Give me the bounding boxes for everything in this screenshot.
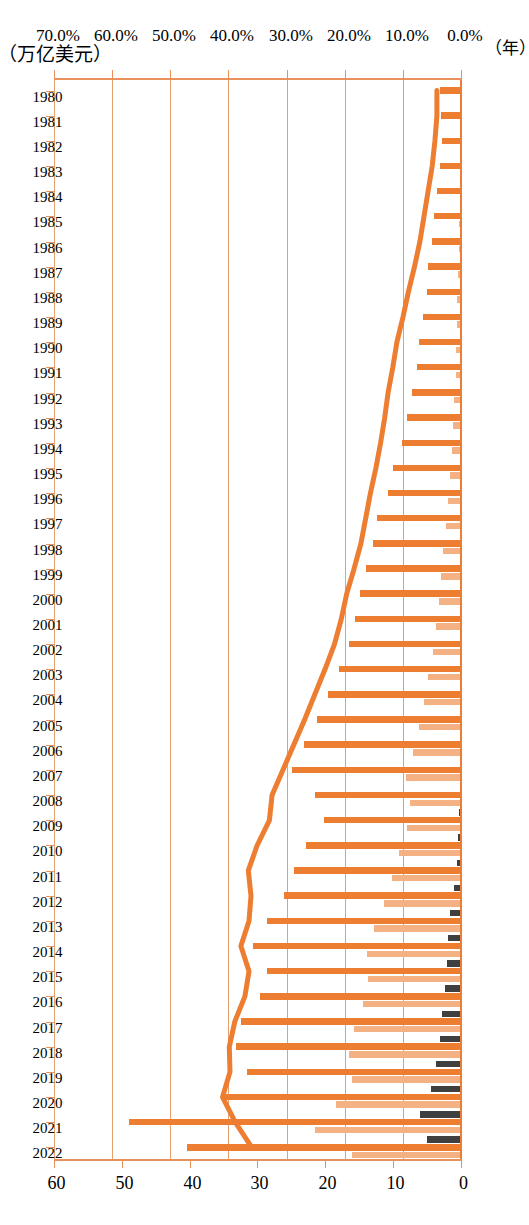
category-tick-label: 1984: [33, 189, 63, 206]
value-tick-mark: [190, 1160, 191, 1168]
value-tick-label: 50: [109, 1173, 139, 1194]
category-tick-label: 2001: [33, 617, 63, 634]
percent-tick-mark: [461, 70, 462, 78]
category-tick-label: 1996: [33, 491, 63, 508]
category-tick-label: 1991: [33, 365, 63, 382]
value-tick-label: 0: [449, 1173, 479, 1194]
category-tick-label: 1990: [33, 340, 63, 357]
category-tick-label: 1983: [33, 164, 63, 181]
line-series: [55, 78, 462, 1160]
category-tick-label: 1989: [33, 315, 63, 332]
value-tick-label: 20: [313, 1173, 343, 1194]
category-tick-label: 2021: [33, 1120, 63, 1137]
category-tick-label: 2015: [33, 969, 63, 986]
category-tick-label: 1993: [33, 415, 63, 432]
category-tick-label: 2005: [33, 717, 63, 734]
category-tick-label: 1994: [33, 440, 63, 457]
value-tick-mark: [325, 1160, 326, 1168]
category-tick-label: 2007: [33, 767, 63, 784]
category-tick-label: 2000: [33, 591, 63, 608]
category-tick-label: 2003: [33, 667, 63, 684]
category-tick-label: 2008: [33, 793, 63, 810]
axis-line-category: [54, 78, 462, 80]
value-tick-label: 60: [42, 1173, 72, 1194]
category-tick-label: 2002: [33, 642, 63, 659]
value-tick-label: 10: [381, 1173, 411, 1194]
value-tick-label: 40: [177, 1173, 207, 1194]
category-tick-label: 2011: [33, 868, 62, 885]
value-tick-mark: [122, 1160, 123, 1168]
category-tick-label: 1997: [33, 516, 63, 533]
category-tick-label: 1988: [33, 289, 63, 306]
percent-tick-mark: [287, 70, 288, 78]
category-tick-label: 1999: [33, 566, 63, 583]
percent-tick-mark: [228, 70, 229, 78]
category-tick-label: 2010: [33, 843, 63, 860]
category-tick-label: 1981: [33, 113, 63, 130]
category-tick-label: 2013: [33, 918, 63, 935]
axis-line-category-right: [54, 1159, 462, 1161]
category-tick-label: 1982: [33, 138, 63, 155]
percent-tick-mark: [170, 70, 171, 78]
category-tick-label: 2006: [33, 742, 63, 759]
line-path: [223, 91, 437, 1148]
category-tick-label: 2020: [33, 1095, 63, 1112]
category-tick-label: 2019: [33, 1069, 63, 1086]
value-tick-label: 30: [245, 1173, 275, 1194]
value-tick-mark: [258, 1160, 259, 1168]
category-tick-label: 2018: [33, 1044, 63, 1061]
category-tick-label: 1987: [33, 264, 63, 281]
percent-tick-label: 70.0%: [16, 26, 100, 46]
percent-tick-mark: [54, 70, 55, 78]
category-tick-label: 2009: [33, 818, 63, 835]
category-tick-label: 1992: [33, 390, 63, 407]
category-tick-label: 1986: [33, 239, 63, 256]
value-tick-mark: [461, 1160, 462, 1168]
category-tick-label: 2004: [33, 692, 63, 709]
percent-tick-mark: [403, 70, 404, 78]
category-tick-label: 1998: [33, 541, 63, 558]
axis-line-percent-zero: [460, 78, 462, 1160]
percent-tick-mark: [112, 70, 113, 78]
category-tick-label: 1985: [33, 214, 63, 231]
percent-tick-mark: [345, 70, 346, 78]
category-tick-label: 1995: [33, 466, 63, 483]
category-tick-label: 2017: [33, 1019, 63, 1036]
category-tick-label: 2012: [33, 893, 63, 910]
value-tick-mark: [393, 1160, 394, 1168]
category-tick-label: 1980: [33, 88, 63, 105]
category-tick-label: 2014: [33, 944, 63, 961]
plot-area: [55, 78, 462, 1160]
category-tick-label: 2016: [33, 994, 63, 1011]
